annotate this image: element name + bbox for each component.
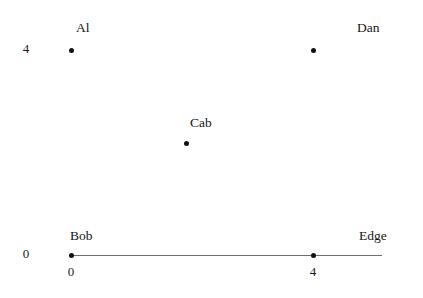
- x-axis-tick-left: 0: [63, 265, 79, 278]
- node-dot-bob[interactable]: [69, 253, 74, 258]
- node-label-cab: Cab: [190, 116, 212, 130]
- node-dot-cab[interactable]: [184, 141, 189, 146]
- node-label-al: Al: [76, 21, 90, 35]
- graph-figure: 4 0 0 4 Al Dan Cab Bob Edge: [0, 0, 423, 298]
- y-axis-tick-top: 4: [18, 42, 34, 55]
- y-axis-tick-bottom: 0: [18, 247, 34, 260]
- node-dot-edge[interactable]: [311, 253, 316, 258]
- node-label-edge: Edge: [359, 229, 387, 243]
- node-label-bob: Bob: [70, 229, 93, 243]
- x-axis-tick-right: 4: [305, 265, 321, 278]
- node-label-dan: Dan: [357, 21, 380, 35]
- node-dot-dan[interactable]: [311, 48, 316, 53]
- edge-bob-edge: [71, 255, 382, 256]
- node-dot-al[interactable]: [69, 48, 74, 53]
